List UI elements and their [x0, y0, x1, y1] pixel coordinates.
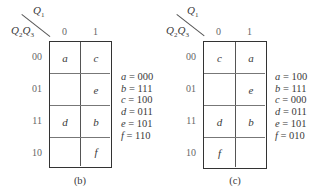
- row-header: 00: [22, 51, 42, 62]
- kmap-cell: [50, 74, 80, 105]
- kmap-cell: c: [81, 42, 111, 73]
- assignment-row: c = 100: [121, 94, 153, 106]
- kmap-cell: [204, 74, 235, 105]
- kmap-cell: a: [50, 42, 80, 73]
- column-header: 0: [203, 26, 234, 37]
- column-header: 1: [80, 26, 111, 37]
- kmap-cell: d: [50, 106, 80, 137]
- column-variable-label: Q1: [33, 4, 44, 19]
- kmap-c: Q1 Q2Q3 0 1 00 01 11 10 c a e d b f a = …: [160, 0, 320, 193]
- assignment-row: f = 110: [121, 130, 153, 142]
- assignment-row: d = 011: [275, 106, 307, 118]
- kmap-b: Q1 Q2Q3 0 1 00 01 11 10 a c e d b f a = …: [0, 0, 160, 193]
- kmap-cell: e: [81, 74, 111, 105]
- kmap-cell: b: [81, 106, 111, 137]
- assignment-row: e = 101: [275, 118, 307, 130]
- column-variable-label: Q1: [187, 4, 198, 19]
- row-variable-label: Q2Q3: [166, 24, 189, 39]
- kmap-cell: f: [81, 138, 111, 166]
- row-variable-label: Q2Q3: [11, 24, 34, 39]
- assignment-row: f = 010: [275, 130, 307, 142]
- row-header: 01: [176, 83, 196, 94]
- row-header: 01: [22, 83, 42, 94]
- row-header: 11: [176, 115, 196, 126]
- kmap-cell: f: [204, 138, 235, 167]
- state-assignment-list: a = 100 b = 111 c = 000 d = 011 e = 101 …: [275, 71, 307, 141]
- kmap-cell: e: [236, 74, 266, 105]
- kmap-cell: [50, 138, 80, 166]
- state-assignment-list: a = 000 b = 111 c = 100 d = 011 e = 101 …: [121, 71, 153, 141]
- figure-caption: (c): [204, 175, 266, 186]
- kmap-cell: c: [204, 42, 235, 73]
- row-header: 00: [176, 51, 196, 62]
- kmap-cell: d: [204, 106, 235, 137]
- kmap-cell: a: [236, 42, 266, 73]
- row-header: 10: [176, 147, 196, 158]
- assignment-row: a = 100: [275, 71, 307, 83]
- assignment-row: c = 000: [275, 94, 307, 106]
- assignment-row: a = 000: [121, 71, 153, 83]
- row-header: 11: [22, 115, 42, 126]
- assignment-row: e = 101: [121, 118, 153, 130]
- kmap-cell: [236, 138, 266, 167]
- kmap-grid: c a e d b f: [203, 41, 267, 169]
- kmap-cell: b: [236, 106, 266, 137]
- assignment-row: d = 011: [121, 106, 153, 118]
- column-header: 1: [234, 26, 265, 37]
- assignment-row: b = 111: [121, 83, 153, 95]
- figure-caption: (b): [49, 175, 111, 186]
- kmap-grid: a c e d b f: [49, 41, 112, 168]
- assignment-row: b = 111: [275, 83, 307, 95]
- row-header: 10: [22, 147, 42, 158]
- column-header: 0: [49, 26, 80, 37]
